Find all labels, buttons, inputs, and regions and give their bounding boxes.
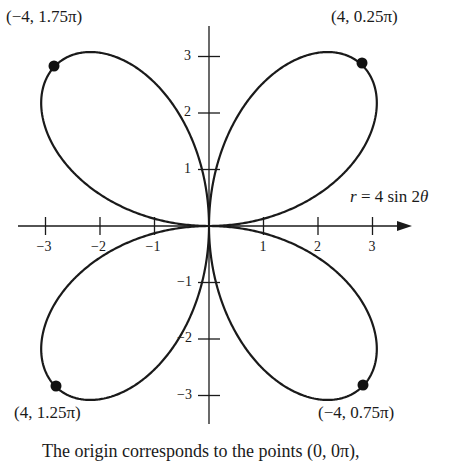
point-top-left (49, 61, 60, 72)
figure-caption: The origin corresponds to the points (0,… (42, 441, 360, 462)
x-tick-label: 1 (260, 240, 267, 254)
equation-r: r (350, 187, 357, 206)
equation-theta: θ (420, 187, 428, 206)
y-tick-label: 3 (184, 49, 191, 63)
x-tick-label: −1 (146, 240, 161, 254)
x-axis-arrow-icon (397, 221, 412, 231)
x-tick-label: 2 (314, 240, 321, 254)
y-tick-label: −1 (177, 275, 192, 289)
label-top-right: (4, 0.25π) (331, 8, 398, 25)
point-bottom-left (51, 381, 62, 392)
equation-label: r = 4 sin 2θ (350, 188, 428, 205)
y-tick-label: −3 (177, 388, 192, 402)
point-bottom-right (358, 380, 369, 391)
y-tick-label: −2 (177, 331, 192, 345)
label-top-left: (−4, 1.75π) (6, 8, 82, 25)
label-bottom-right: (−4, 0.75π) (318, 404, 394, 421)
label-bottom-left: (4, 1.25π) (14, 404, 81, 421)
point-top-right (357, 58, 368, 69)
x-tick-label: 3 (369, 240, 376, 254)
y-tick-label: 1 (184, 162, 191, 176)
polar-plot (0, 0, 449, 471)
y-tick-label: 2 (184, 105, 191, 119)
x-tick-label: −2 (91, 240, 106, 254)
equation-body: = 4 sin 2 (357, 187, 420, 206)
x-tick-label: −3 (37, 240, 52, 254)
